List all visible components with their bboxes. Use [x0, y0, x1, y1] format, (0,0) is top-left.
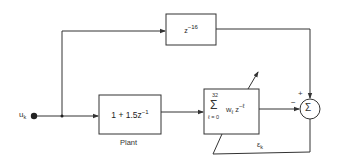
- delay-to-sum-line: [216, 29, 310, 98]
- input-node-dot: [31, 113, 37, 119]
- input-label: uk: [19, 110, 26, 120]
- sum-lower-limit: ℓ = 0: [208, 114, 219, 120]
- minus-sign: −: [291, 98, 296, 107]
- plus-sign: +: [298, 89, 303, 98]
- summing-symbol: Σ: [305, 102, 311, 113]
- adaptation-arrow: [248, 72, 258, 89]
- filter-term: wℓ z−ℓ: [226, 103, 245, 115]
- branch-junction-dot: [61, 115, 64, 118]
- delay-block-label: z−16: [166, 24, 216, 34]
- plant-caption: Plant: [120, 138, 137, 147]
- input-to-delay-line: [62, 31, 165, 116]
- sum-sigma: Σ: [210, 98, 217, 112]
- error-label: εk: [257, 140, 263, 150]
- plant-block-label: 1 + 1.5z−1: [99, 109, 161, 120]
